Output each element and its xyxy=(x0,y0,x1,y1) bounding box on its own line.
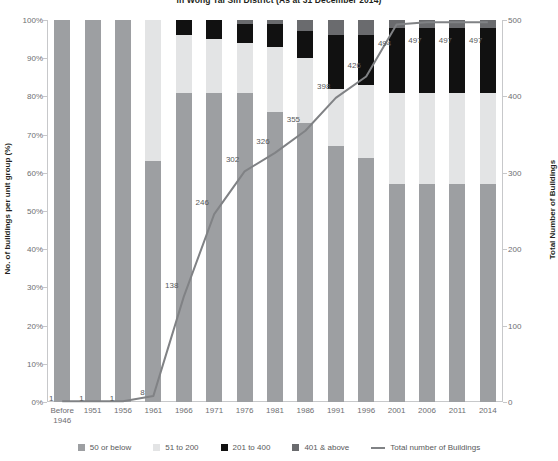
total-buildings-line xyxy=(47,20,503,402)
x-axis-label: 1956 xyxy=(108,406,138,416)
y-tick-mark-right xyxy=(503,20,507,21)
line-point-label: 497 xyxy=(469,36,482,45)
y-tick-right: 400 xyxy=(508,92,521,101)
y-axis-right-title: Total Number of Buildings xyxy=(548,145,557,275)
legend-label: 401 & above xyxy=(304,443,349,452)
y-tick-mark-right xyxy=(503,326,507,327)
legend-label: Total number of Buildings xyxy=(390,443,480,452)
legend-label: 201 to 400 xyxy=(233,443,271,452)
line-path xyxy=(62,22,488,401)
x-axis-label: 2011 xyxy=(442,406,472,416)
x-axis-label: 1971 xyxy=(199,406,229,416)
y-tick-right: 100 xyxy=(508,321,521,330)
y-tick-mark-right xyxy=(503,249,507,250)
x-axis-label: 1981 xyxy=(260,406,290,416)
y-tick-mark-right xyxy=(503,96,507,97)
legend-label: 51 to 200 xyxy=(165,443,198,452)
x-axis-label: 2001 xyxy=(381,406,411,416)
line-point-label: 398 xyxy=(317,81,330,90)
line-point-label: 138 xyxy=(165,280,178,289)
chart-title: in Wong Tai Sin District (As at 31 Decem… xyxy=(0,0,558,5)
x-axis-label: 1986 xyxy=(290,406,320,416)
legend-swatch-icon xyxy=(292,444,299,451)
y-tick-left: 10% xyxy=(27,359,43,368)
legend-swatch-icon xyxy=(221,444,228,451)
line-point-label: 426 xyxy=(348,60,361,69)
line-point-label: 326 xyxy=(256,136,269,145)
line-point-label: 497 xyxy=(408,36,421,45)
legend-label: 50 or below xyxy=(90,443,131,452)
legend-item[interactable]: 201 to 400 xyxy=(221,443,271,452)
legend-item[interactable]: 401 & above xyxy=(292,443,349,452)
legend-swatch-icon xyxy=(78,444,85,451)
y-tick-mark-left xyxy=(43,402,47,403)
chart-legend: 50 or below51 to 200201 to 400401 & abov… xyxy=(0,443,558,452)
y-tick-right: 500 xyxy=(508,16,521,25)
x-axis-label: 1966 xyxy=(169,406,199,416)
y-tick-left: 50% xyxy=(27,207,43,216)
y-tick-left: 100% xyxy=(23,16,43,25)
x-axis-label: 1991 xyxy=(321,406,351,416)
x-axis-label: Before 1946 xyxy=(47,406,77,426)
legend-swatch-icon xyxy=(153,444,160,451)
line-point-label: 246 xyxy=(196,198,209,207)
legend-item[interactable]: 51 to 200 xyxy=(153,443,198,452)
x-axis-label: 1961 xyxy=(138,406,168,416)
y-tick-left: 70% xyxy=(27,130,43,139)
legend-item[interactable]: Total number of Buildings xyxy=(371,443,480,452)
y-tick-mark-right xyxy=(503,402,507,403)
y-axis-left-title: No. of buildings per unit group (%) xyxy=(3,145,12,275)
y-tick-left: 40% xyxy=(27,245,43,254)
line-point-label: 497 xyxy=(439,36,452,45)
line-point-label: 355 xyxy=(287,114,300,123)
y-tick-left: 30% xyxy=(27,283,43,292)
line-point-label: 302 xyxy=(226,155,239,164)
x-axis-label: 2014 xyxy=(473,406,503,416)
y-tick-right: 0 xyxy=(508,398,512,407)
line-point-label: 8 xyxy=(140,387,144,396)
y-tick-left: 0% xyxy=(31,398,43,407)
y-tick-left: 80% xyxy=(27,92,43,101)
x-axis-label: 2006 xyxy=(412,406,442,416)
line-point-label: 1 xyxy=(79,394,83,403)
line-point-label: 494 xyxy=(378,38,391,47)
chart-container: in Wong Tai Sin District (As at 31 Decem… xyxy=(0,0,558,461)
x-axis-label: 1996 xyxy=(351,406,381,416)
y-tick-left: 60% xyxy=(27,168,43,177)
y-tick-mark-right xyxy=(503,173,507,174)
x-axis-label: 1951 xyxy=(77,406,107,416)
plot-area: 0%10%20%30%40%50%60%70%80%90%100% 010020… xyxy=(47,20,503,402)
legend-line-icon xyxy=(371,447,385,449)
legend-item[interactable]: 50 or below xyxy=(78,443,131,452)
y-tick-left: 90% xyxy=(27,54,43,63)
y-tick-right: 300 xyxy=(508,168,521,177)
x-axis-label: 1976 xyxy=(229,406,259,416)
line-point-label: 1 xyxy=(110,394,114,403)
y-tick-left: 20% xyxy=(27,321,43,330)
line-point-label: 1 xyxy=(49,394,53,403)
y-tick-right: 200 xyxy=(508,245,521,254)
